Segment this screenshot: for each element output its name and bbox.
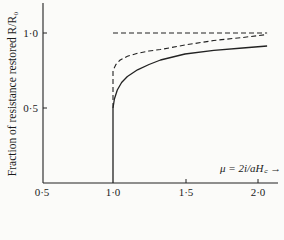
x-tick-label-1.5: 1·5 [179, 186, 194, 198]
x-axis-label: μ = 2i/aH꜀ → [220, 160, 281, 175]
x-tick-label-0.5: 0·5 [35, 186, 50, 198]
y-tick-label-1: 1·0 [16, 27, 38, 39]
x-tick-label-2: 2·0 [251, 186, 266, 198]
y-tick-label-0.5: 0·5 [16, 102, 38, 114]
x-tick-label-1: 1·0 [106, 186, 121, 198]
